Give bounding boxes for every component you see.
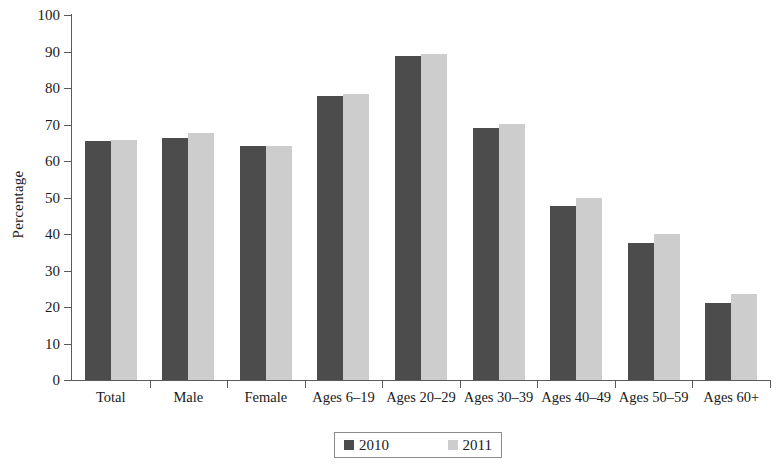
bar-2011-ages-60+ <box>731 294 757 380</box>
x-tick <box>382 380 383 388</box>
bar-2011-female <box>266 146 292 380</box>
bar-2011-ages-50–59 <box>654 234 680 380</box>
x-tick <box>770 380 771 388</box>
y-tick-label-70: 70 <box>24 118 60 133</box>
bar-2010-ages-40–49 <box>550 206 576 380</box>
bar-group <box>473 15 525 380</box>
x-tick <box>305 380 306 388</box>
y-tick-30 <box>64 271 72 272</box>
legend-swatch-icon-2010 <box>344 440 354 450</box>
x-axis-label-total: Total <box>72 390 150 406</box>
bar-2010-ages-60+ <box>705 303 731 380</box>
x-axis-label-female: Female <box>227 390 305 406</box>
legend-swatch-icon-2011 <box>448 440 458 450</box>
y-tick-0 <box>64 380 72 381</box>
bar-group <box>395 15 447 380</box>
y-tick-80 <box>64 88 72 89</box>
bar-2011-total <box>111 140 137 380</box>
legend-label-2011: 2011 <box>463 438 492 453</box>
x-axis-label-ages-60+: Ages 60+ <box>692 390 770 406</box>
bar-2010-total <box>85 141 111 380</box>
y-tick-label-80: 80 <box>24 81 60 96</box>
bar-2011-ages-40–49 <box>576 198 602 380</box>
y-tick-label-40: 40 <box>24 227 60 242</box>
bar-2010-male <box>162 138 188 380</box>
bar-2010-female <box>240 146 266 380</box>
x-axis-line <box>71 380 771 381</box>
x-axis-label-male: Male <box>150 390 228 406</box>
y-tick-100 <box>64 15 72 16</box>
bar-2010-ages-20–29 <box>395 56 421 380</box>
y-tick-label-50: 50 <box>24 191 60 206</box>
y-tick-70 <box>64 125 72 126</box>
x-tick <box>460 380 461 388</box>
y-tick-90 <box>64 52 72 53</box>
x-tick <box>227 380 228 388</box>
bar-2010-ages-30–39 <box>473 128 499 380</box>
x-axis-label-ages-40–49: Ages 40–49 <box>537 390 615 406</box>
legend-label-2010: 2010 <box>359 438 389 453</box>
x-axis-label-ages-20–29: Ages 20–29 <box>382 390 460 406</box>
x-tick <box>692 380 693 388</box>
y-tick-label-100: 100 <box>24 8 60 23</box>
bar-group <box>317 15 369 380</box>
y-tick-label-60: 60 <box>24 154 60 169</box>
bar-2011-ages-6–19 <box>343 94 369 380</box>
y-tick-label-30: 30 <box>24 264 60 279</box>
x-axis-label-ages-6–19: Ages 6–19 <box>305 390 383 406</box>
bar-2010-ages-50–59 <box>628 243 654 380</box>
legend-item-2010: 2010 <box>344 438 389 453</box>
y-tick-40 <box>64 234 72 235</box>
x-tick <box>615 380 616 388</box>
bar-2011-male <box>188 133 214 380</box>
bar-group <box>705 15 757 380</box>
bar-2011-ages-20–29 <box>421 54 447 380</box>
y-tick-label-10: 10 <box>24 337 60 352</box>
y-tick-20 <box>64 307 72 308</box>
x-tick <box>150 380 151 388</box>
y-tick-label-20: 20 <box>24 300 60 315</box>
bar-2010-ages-6–19 <box>317 96 343 380</box>
x-axis-label-ages-30–39: Ages 30–39 <box>460 390 538 406</box>
y-tick-60 <box>64 161 72 162</box>
bar-group <box>85 15 137 380</box>
bar-group <box>240 15 292 380</box>
x-axis-label-ages-50–59: Ages 50–59 <box>615 390 693 406</box>
bar-group <box>162 15 214 380</box>
y-tick-label-0: 0 <box>24 373 60 388</box>
chart-legend: 2010 2011 <box>334 432 502 458</box>
bar-2011-ages-30–39 <box>499 124 525 380</box>
legend-item-2011: 2011 <box>448 438 492 453</box>
x-tick <box>537 380 538 388</box>
y-tick-10 <box>64 344 72 345</box>
y-tick-50 <box>64 198 72 199</box>
bar-chart: Percentage 0102030405060708090100 TotalM… <box>0 0 778 464</box>
bar-group <box>628 15 680 380</box>
bar-group <box>550 15 602 380</box>
y-tick-label-90: 90 <box>24 45 60 60</box>
